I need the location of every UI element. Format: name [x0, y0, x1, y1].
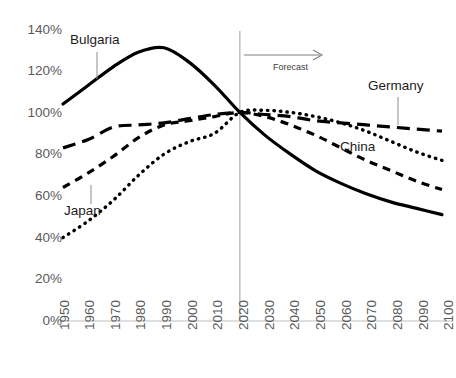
x-tick-label-2020: 2020: [236, 300, 251, 330]
series-label-bulgaria: Bulgaria: [70, 32, 120, 47]
y-tick-label-40: 40%: [14, 230, 62, 245]
x-tick-label-2080: 2080: [390, 300, 405, 330]
x-tick-label-1980: 1980: [133, 300, 148, 330]
series-line-germany: [63, 112, 442, 147]
x-tick-label-2050: 2050: [313, 300, 328, 330]
population-index-line-chart: 140% 120% 100% 80% 60% 40% 20% 0% 1950 1…: [0, 0, 456, 378]
series-callout-leaders: [91, 52, 398, 204]
y-tick-label-120: 120%: [14, 63, 62, 78]
x-tick-label-2030: 2030: [262, 300, 277, 330]
y-tick-label-140: 140%: [14, 22, 62, 37]
series-line-bulgaria: [63, 47, 442, 214]
series-line-japan: [63, 110, 442, 238]
chart-series-group: [63, 47, 442, 237]
series-label-germany: Germany: [368, 78, 424, 93]
series-label-china: China: [340, 139, 375, 154]
forecast-annotation-label: Forecast: [273, 62, 308, 72]
x-tick-label-1950: 1950: [57, 300, 72, 330]
x-tick-label-2100: 2100: [441, 300, 456, 330]
y-tick-label-60: 60%: [14, 188, 62, 203]
y-tick-label-80: 80%: [14, 146, 62, 161]
x-tick-label-2060: 2060: [339, 300, 354, 330]
x-tick-label-2010: 2010: [210, 300, 225, 330]
x-tick-label-2000: 2000: [185, 300, 200, 330]
series-label-japan: Japan: [64, 203, 101, 218]
x-tick-label-1990: 1990: [159, 300, 174, 330]
y-tick-label-20: 20%: [14, 271, 62, 286]
forecast-annotation-group: [240, 31, 322, 321]
x-tick-label-2090: 2090: [416, 300, 431, 330]
x-tick-label-2070: 2070: [364, 300, 379, 330]
x-tick-label-1970: 1970: [108, 300, 123, 330]
y-tick-label-0: 0%: [14, 313, 62, 328]
x-tick-label-2040: 2040: [287, 300, 302, 330]
y-tick-label-100: 100%: [14, 105, 62, 120]
x-tick-label-1960: 1960: [82, 300, 97, 330]
